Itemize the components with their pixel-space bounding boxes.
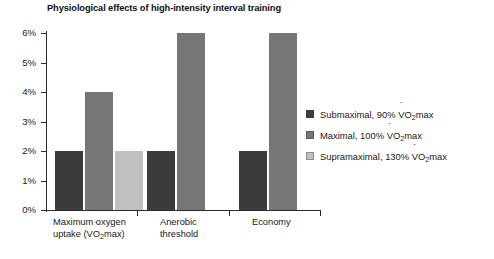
legend-subscript: 2 xyxy=(412,113,416,122)
legend-swatch-icon-maximal xyxy=(306,131,314,139)
x-category-line-2-post: max) xyxy=(104,229,125,239)
bar-maximal-anerobic-threshold[interactable] xyxy=(177,33,205,210)
v-dot-icon: V xyxy=(387,130,393,141)
legend-prefix: Maximal, 100% xyxy=(320,130,387,141)
legend-swatch-icon-submaximal xyxy=(306,110,314,118)
chart-figure: Physiological effects of high-intensity … xyxy=(0,0,494,259)
x-category-label-maximum-oxygen-uptake: Maximum oxygen uptake (VO2max) xyxy=(53,217,143,240)
x-category-label-anerobic-threshold: Anerobic threshold xyxy=(160,217,240,240)
legend-v: V xyxy=(398,109,404,120)
y-label-0: 0% xyxy=(2,204,36,215)
bar-maximal-maximum-oxygen-uptake[interactable] xyxy=(85,92,113,210)
bar-maximal-economy[interactable] xyxy=(269,33,297,210)
chart-legend: Submaximal, 90% VO2max Maximal, 100% VO2… xyxy=(306,106,488,169)
legend-subscript: 2 xyxy=(400,134,404,143)
y-tick-0 xyxy=(41,210,46,211)
plot-area xyxy=(46,33,320,210)
x-category-line-2: threshold xyxy=(160,229,240,241)
bar-supramaximal-maximum-oxygen-uptake[interactable] xyxy=(115,151,143,210)
legend-v: V xyxy=(412,151,418,162)
x-tick-group-1 xyxy=(137,211,138,216)
legend-label-maximal: Maximal, 100% VO2max xyxy=(320,130,422,141)
legend-suffix: max xyxy=(416,109,434,120)
legend-suffix: max xyxy=(429,151,447,162)
v-dot-icon: O xyxy=(93,229,100,241)
bar-submaximal-economy[interactable] xyxy=(239,151,267,210)
y-label-1: 1% xyxy=(2,175,36,186)
v-dot-icon: V xyxy=(398,109,404,120)
legend-v: V xyxy=(387,130,393,141)
legend-item-submaximal[interactable]: Submaximal, 90% VO2max xyxy=(306,106,488,122)
x-category-line-1: Anerobic xyxy=(160,217,240,229)
legend-swatch-icon-supramaximal xyxy=(306,152,314,160)
legend-o: O xyxy=(404,109,411,120)
x-category-line-2: uptake (VO2max) xyxy=(53,229,143,241)
y-label-3: 3% xyxy=(2,116,36,127)
x-category-subscript: 2 xyxy=(100,232,104,241)
x-axis-line xyxy=(46,210,321,211)
y-label-2: 2% xyxy=(2,145,36,156)
legend-item-maximal[interactable]: Maximal, 100% VO2max xyxy=(306,127,488,143)
y-label-5: 5% xyxy=(2,57,36,68)
x-tick-group-2 xyxy=(229,211,230,216)
x-category-line-1: Economy xyxy=(252,217,332,229)
x-category-label-economy: Economy xyxy=(252,217,332,229)
x-category-line-2-pre: uptake (V xyxy=(53,229,93,239)
legend-prefix: Supramaximal, 130% xyxy=(320,151,412,162)
chart-title: Physiological effects of high-intensity … xyxy=(47,3,327,13)
legend-subscript: 2 xyxy=(425,155,429,164)
legend-item-supramaximal[interactable]: Supramaximal, 130% VO2max xyxy=(306,148,488,164)
legend-prefix: Submaximal, 90% xyxy=(320,109,398,120)
x-tick-group-3 xyxy=(320,211,321,216)
v-dot-icon: V xyxy=(412,151,418,162)
y-label-6: 6% xyxy=(2,27,36,38)
legend-label-submaximal: Submaximal, 90% VO2max xyxy=(320,109,433,120)
legend-suffix: max xyxy=(404,130,422,141)
legend-label-supramaximal: Supramaximal, 130% VO2max xyxy=(320,151,447,162)
y-label-4: 4% xyxy=(2,86,36,97)
bar-submaximal-maximum-oxygen-uptake[interactable] xyxy=(55,151,83,210)
bar-submaximal-anerobic-threshold[interactable] xyxy=(147,151,175,210)
